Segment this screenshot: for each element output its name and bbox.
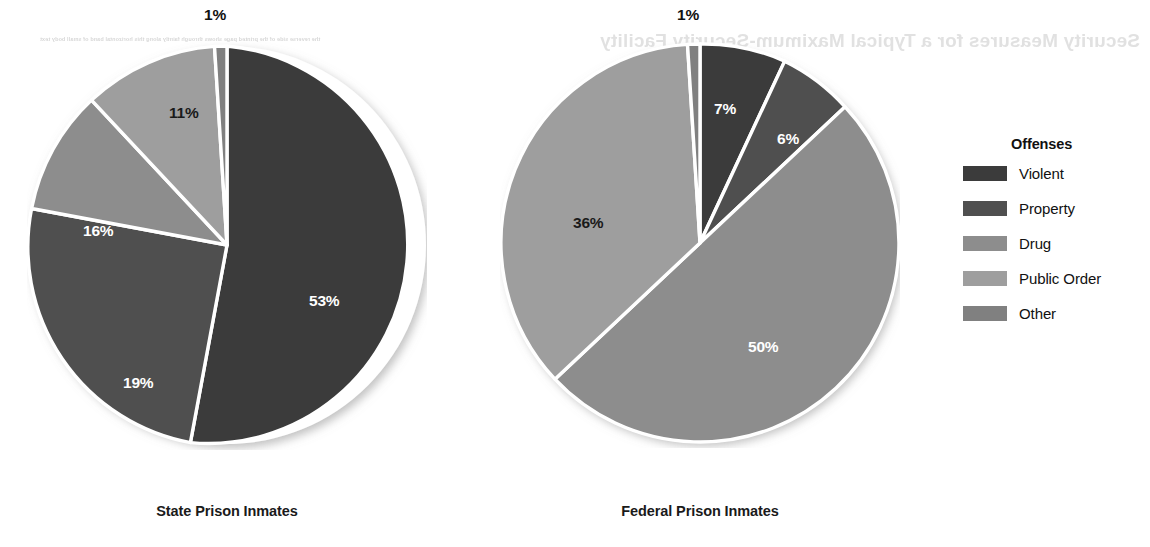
legend-label-property: Property — [1019, 201, 1075, 216]
legend-item-property[interactable]: Property — [963, 198, 1143, 218]
federal-pie-chart: 7% 6% 50% 36% 1% — [500, 38, 900, 448]
legend-item-drug[interactable]: Drug — [963, 233, 1143, 253]
state-pie-caption: State Prison Inmates — [67, 503, 387, 519]
federal-label-public-order: 36% — [573, 214, 603, 232]
legend-swatch-property-icon — [963, 201, 1007, 216]
state-pie-chart: 53% 19% 16% 11% 1% — [27, 40, 427, 450]
pie-chart-figure: the reverse side of the printed page sho… — [0, 0, 1150, 547]
federal-label-property: 6% — [777, 130, 799, 148]
legend-item-other[interactable]: Other — [963, 303, 1143, 323]
state-label-public-order: 11% — [169, 104, 199, 122]
state-slice-property — [28, 209, 227, 443]
state-label-drug: 16% — [83, 222, 113, 240]
legend-label-violent: Violent — [1019, 166, 1064, 181]
federal-label-other: 1% — [677, 6, 699, 24]
legend-label-public-order: Public Order — [1019, 271, 1101, 286]
legend: Offenses Violent Property Drug Public Or… — [963, 136, 1143, 338]
legend-swatch-violent-icon — [963, 166, 1007, 181]
state-label-other: 1% — [204, 6, 226, 24]
federal-label-violent: 7% — [714, 100, 736, 118]
federal-pie-slices — [501, 44, 899, 442]
legend-swatch-other-icon — [963, 306, 1007, 321]
legend-swatch-public-order-icon — [963, 271, 1007, 286]
state-label-property: 19% — [123, 374, 153, 392]
federal-pie-caption: Federal Prison Inmates — [540, 503, 860, 519]
state-pie-svg — [27, 40, 427, 450]
legend-item-public-order[interactable]: Public Order — [963, 268, 1143, 288]
legend-title: Offenses — [1011, 136, 1143, 152]
legend-item-violent[interactable]: Violent — [963, 163, 1143, 183]
federal-label-drug: 50% — [748, 338, 778, 356]
legend-swatch-drug-icon — [963, 236, 1007, 251]
federal-pie-svg — [500, 38, 900, 448]
state-pie-slices — [28, 46, 408, 443]
state-label-violent: 53% — [309, 292, 339, 310]
legend-label-other: Other — [1019, 306, 1056, 321]
legend-label-drug: Drug — [1019, 236, 1051, 251]
